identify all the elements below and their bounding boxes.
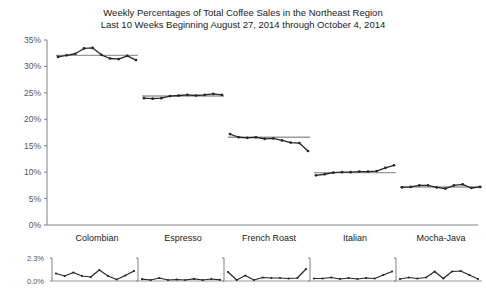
data-point (74, 52, 77, 55)
subpanel-data-point (98, 269, 100, 271)
subpanel-data-point (184, 279, 186, 281)
series-line (58, 48, 136, 60)
y-tick-label: 10% (24, 167, 41, 177)
subpanel-data-point (55, 272, 57, 274)
subpanel-data-point (236, 279, 238, 281)
data-point (332, 171, 335, 174)
subpanel-data-point (244, 274, 246, 276)
subpanel-data-point (219, 279, 221, 281)
subpanel-data-point (391, 270, 393, 272)
subpanel-data-point (202, 279, 204, 281)
subpanel-ytick-label-min: 0.0% (27, 277, 44, 286)
subpanel-data-point (158, 277, 160, 279)
data-point (57, 56, 60, 59)
subpanel-data-point (416, 277, 418, 279)
subpanel-data-point (176, 278, 178, 280)
subpanel-data-point (468, 274, 470, 276)
data-point (470, 187, 473, 190)
data-point (358, 170, 361, 173)
subpanel-series-line (228, 269, 306, 280)
y-tick-label: 5% (29, 194, 42, 204)
subpanel-series-line (400, 271, 478, 279)
data-point (91, 47, 94, 50)
data-point (135, 59, 138, 62)
subpanel-data-point (477, 278, 479, 280)
subpanel-data-point (279, 277, 281, 279)
subpanel-series-line (142, 278, 220, 280)
subpanel-data-point (374, 277, 376, 279)
subpanel-data-point (330, 276, 332, 278)
y-tick-label: 0% (29, 220, 42, 230)
category-label: Italian (343, 233, 367, 243)
subpanel-data-point (322, 277, 324, 279)
data-point (418, 184, 421, 187)
data-point (83, 47, 86, 50)
data-point (151, 97, 154, 100)
data-point (435, 186, 438, 189)
subpanel-data-point (64, 275, 66, 277)
subpanel-ytick-label-max: 2.3% (27, 254, 44, 263)
subpanel-data-point (210, 278, 212, 280)
category-label: Colombian (75, 233, 118, 243)
category-label: French Roast (242, 233, 297, 243)
subpanel-data-point (305, 268, 307, 270)
data-point (401, 186, 404, 189)
data-point (323, 173, 326, 176)
data-point (212, 93, 215, 96)
subpanel-data-point (296, 277, 298, 279)
subpanel-series-line (56, 270, 134, 280)
subpanel-data-point (72, 271, 74, 273)
data-point (272, 137, 275, 140)
data-point (160, 97, 163, 100)
data-point (65, 54, 68, 57)
category-label: Espresso (164, 233, 202, 243)
data-point (375, 170, 378, 173)
data-point (195, 94, 198, 97)
subpanel-data-point (339, 278, 341, 280)
data-point (177, 94, 180, 97)
data-point (203, 94, 206, 97)
subpanel-data-point (116, 278, 118, 280)
subpanel-data-point (133, 270, 135, 272)
data-point (237, 136, 240, 139)
data-point (263, 137, 266, 140)
data-point (444, 187, 447, 190)
subpanel-data-point (365, 277, 367, 279)
subpanel-data-point (253, 279, 255, 281)
data-point (427, 184, 430, 187)
data-point (453, 184, 456, 187)
subpanel-data-point (442, 277, 444, 279)
data-point (341, 171, 344, 174)
y-tick-label: 20% (24, 114, 41, 124)
subpanel-data-point (193, 278, 195, 280)
data-point (393, 164, 396, 167)
data-point (143, 97, 146, 100)
data-point (221, 94, 224, 97)
data-point (281, 139, 284, 142)
subpanel-data-point (227, 271, 229, 273)
data-point (117, 58, 120, 61)
subpanel-data-point (313, 277, 315, 279)
subpanel-data-point (399, 278, 401, 280)
subpanel-data-point (150, 279, 152, 281)
subpanel-data-point (141, 278, 143, 280)
category-label: Mocha-Java (416, 233, 465, 243)
data-point (289, 141, 292, 144)
main-y-axis: 0%5%10%15%20%25%30%35% (24, 35, 478, 230)
data-point (479, 186, 482, 189)
subpanel-data-point (425, 276, 427, 278)
subpanel-data-point (348, 277, 350, 279)
subpanel-data-point (81, 275, 83, 277)
subpanel-data-point (382, 274, 384, 276)
subpanel-data-point (460, 270, 462, 272)
data-point (307, 150, 310, 153)
subpanel-data-point (356, 278, 358, 280)
subpanels-group: 2.3%0.0% (27, 254, 482, 286)
subpanel-series-line (314, 272, 392, 280)
y-tick-label: 30% (24, 61, 41, 71)
data-point (255, 136, 258, 139)
data-point (100, 53, 103, 56)
subpanel-data-point (408, 276, 410, 278)
data-point (126, 55, 129, 58)
subpanel-data-point (167, 279, 169, 281)
